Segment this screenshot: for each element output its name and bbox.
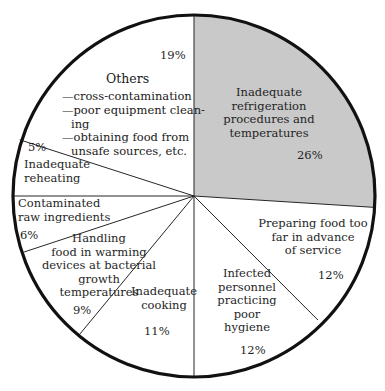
- slice-label-infected-line5: hygiene: [206, 321, 288, 335]
- slice-label-preparing-line2: far in advance: [252, 231, 374, 245]
- slice-label-refrigeration-line1: Inadequate: [212, 86, 326, 100]
- slice-label-reheating: Inadequate reheating: [24, 158, 128, 185]
- slice-label-infected: Infected personnel practicing poor hygie…: [206, 267, 288, 335]
- pie-chart: Inadequate refrigeration procedures and …: [0, 0, 385, 391]
- slice-label-contaminated-line2: raw ingredients: [18, 211, 134, 225]
- slice-percent-refrigeration: 26%: [297, 148, 323, 162]
- others-sub-item-3-cont: unsafe sources, etc.: [62, 145, 202, 159]
- slice-percent-infected: 12%: [240, 343, 266, 357]
- others-sub-item-2-cont: ing: [62, 118, 202, 132]
- slice-label-contaminated-line1: Contaminated: [18, 197, 134, 211]
- slice-label-infected-line4: poor: [206, 308, 288, 322]
- slice-label-preparing-line1: Preparing food too: [252, 217, 374, 231]
- slice-label-refrigeration-line3: procedures and: [212, 113, 326, 127]
- slice-label-warming: Handling food in warming devices at bact…: [37, 232, 161, 300]
- slice-label-preparing: Preparing food too far in advance of ser…: [252, 217, 374, 258]
- slice-percent-cooking: 11%: [144, 324, 170, 338]
- slice-label-warming-line1: Handling: [37, 232, 161, 246]
- slice-label-contaminated: Contaminated raw ingredients: [18, 197, 134, 224]
- slice-label-refrigeration-line4: temperatures: [212, 127, 326, 141]
- slice-label-refrigeration: Inadequate refrigeration procedures and …: [212, 86, 326, 140]
- slice-label-warming-line2: food in warming: [37, 246, 161, 260]
- slice-label-warming-line5: temperatures: [37, 286, 161, 300]
- slice-label-preparing-line3: of service: [252, 244, 374, 258]
- slice-percent-others: 19%: [160, 48, 186, 62]
- slice-percent-contaminated: 6%: [20, 228, 38, 242]
- slice-percent-preparing: 12%: [318, 268, 344, 282]
- slice-label-infected-line2: personnel: [206, 281, 288, 295]
- slice-label-infected-line1: Infected: [206, 267, 288, 281]
- slice-percent-reheating: 5%: [28, 140, 46, 154]
- others-sub-item-3: —obtaining food from: [62, 131, 202, 145]
- slice-label-others-sublist: —cross-contamination —poor equipment cle…: [62, 90, 202, 159]
- slice-label-infected-line3: practicing: [206, 294, 288, 308]
- others-sub-item-1: —cross-contamination: [62, 90, 202, 104]
- slice-label-cooking-line2: cooking: [122, 299, 206, 313]
- slice-label-warming-line3: devices at bacterial: [37, 259, 161, 273]
- slice-percent-warming: 9%: [73, 303, 91, 317]
- slice-label-reheating-line2: reheating: [24, 172, 128, 186]
- slice-label-refrigeration-line2: refrigeration: [212, 100, 326, 114]
- slice-label-reheating-line1: Inadequate: [24, 158, 128, 172]
- slice-label-warming-line4: growth: [37, 273, 161, 287]
- others-sub-item-2: —poor equipment clean-: [62, 104, 202, 118]
- slice-label-others-title: Others: [106, 71, 149, 86]
